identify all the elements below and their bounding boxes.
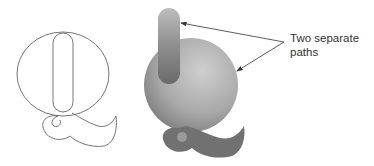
filled-q-tail-curl: [177, 132, 187, 142]
arrow-to-bowl: [237, 42, 284, 71]
outline-q-bowl: [17, 32, 109, 116]
outline-q-figure: [17, 32, 116, 146]
filled-q-bar: [158, 8, 180, 84]
filled-q-tail: [163, 126, 245, 158]
annotation-line-1: Two separate: [290, 31, 359, 45]
outline-q-inner-bar: [53, 33, 73, 112]
outline-q-tail: [43, 113, 117, 146]
diagram-canvas: Two separate paths: [0, 0, 374, 166]
annotation-line-2: paths: [290, 45, 359, 59]
annotation-label: Two separate paths: [290, 31, 359, 59]
diagram-svg: [0, 0, 374, 166]
filled-q-figure: [144, 8, 245, 158]
